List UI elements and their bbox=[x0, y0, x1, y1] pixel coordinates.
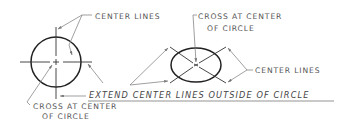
ellipse-center-cross bbox=[194, 64, 198, 66]
right-center-lines-leader bbox=[228, 48, 253, 82]
left-cross-label-line2: OF CIRCLE bbox=[42, 112, 90, 121]
right-cross-label-line1: CROSS AT CENTER bbox=[198, 12, 282, 21]
center-lines-diagram: CENTER LINES CROSS AT CENTER OF CIRCLE C… bbox=[0, 0, 353, 123]
left-center-lines-label: CENTER LINES bbox=[95, 12, 160, 21]
extend-leader-circle-right bbox=[88, 64, 103, 83]
extend-note-text: EXTEND CENTER LINES OUTSIDE OF CIRCLE bbox=[89, 90, 309, 100]
right-center-lines-label: CENTER LINES bbox=[255, 66, 320, 75]
extend-leader-ellipse-top bbox=[130, 48, 168, 85]
right-ellipse-figure: CROSS AT CENTER OF CIRCLE CENTER LINES bbox=[170, 12, 320, 83]
left-cross-label-line1: CROSS AT CENTER bbox=[33, 102, 117, 111]
right-cross-leader bbox=[193, 15, 197, 62]
extend-leader-ellipse-bottom bbox=[130, 81, 168, 85]
right-cross-label-line2: OF CIRCLE bbox=[207, 24, 255, 33]
left-center-lines-leader bbox=[58, 15, 92, 55]
